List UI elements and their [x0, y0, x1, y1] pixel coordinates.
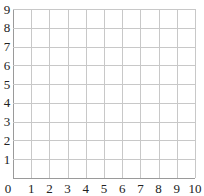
x-tick-label: 5 — [101, 181, 108, 196]
x-tick-label: 2 — [46, 181, 53, 196]
y-tick-label: 4 — [4, 95, 11, 110]
x-tick-label: 4 — [83, 181, 90, 196]
x-tick-label: 1 — [28, 181, 35, 196]
y-tick-label: 8 — [4, 20, 11, 35]
y-tick-label: 7 — [4, 39, 11, 54]
x-tick-label: 10 — [189, 181, 202, 196]
y-tick-label: 5 — [4, 77, 11, 92]
x-tick-label: 3 — [64, 181, 71, 196]
y-tick-label: 1 — [4, 152, 11, 167]
x-tick-label: 7 — [137, 181, 144, 196]
x-tick-label: 9 — [174, 181, 181, 196]
y-tick-label: 3 — [4, 114, 11, 129]
x-tick-label: 6 — [119, 181, 126, 196]
y-tick-label: 9 — [4, 2, 11, 17]
x-tick-label: 8 — [155, 181, 162, 196]
coordinate-grid-chart: 012345678910 123456789 — [0, 0, 204, 196]
y-tick-label: 2 — [4, 133, 11, 148]
y-tick-label: 6 — [4, 58, 11, 73]
x-tick-label: 0 — [5, 181, 12, 196]
y-axis-tick-labels: 123456789 — [4, 2, 11, 167]
x-axis-tick-labels: 012345678910 — [5, 181, 202, 196]
grid-lines — [13, 9, 196, 179]
